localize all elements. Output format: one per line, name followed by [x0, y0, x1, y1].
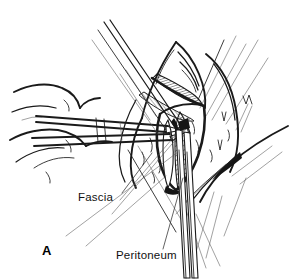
surgical-illustration-figure: Fascia Peritoneum A [0, 0, 297, 279]
label-fascia: Fascia [78, 191, 113, 203]
label-peritoneum: Peritoneum [116, 249, 177, 261]
figure-background [0, 0, 297, 279]
panel-letter: A [42, 243, 52, 258]
illustration-canvas: Fascia Peritoneum A [0, 0, 297, 279]
